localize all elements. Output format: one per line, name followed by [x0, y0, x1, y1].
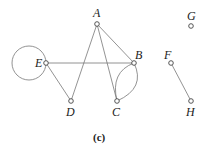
- label-g: G: [187, 9, 196, 23]
- label-c: C: [112, 105, 121, 119]
- edge-b-c-outer: [117, 63, 138, 101]
- node-e: [44, 61, 49, 66]
- graph-diagram: A B C D E F G H (c): [0, 0, 203, 151]
- edge-d-a: [71, 24, 97, 101]
- edge-a-b: [97, 24, 134, 63]
- label-a: A: [92, 6, 101, 20]
- edge-a-c: [97, 24, 117, 101]
- node-c: [115, 99, 120, 104]
- label-f: F: [163, 48, 172, 62]
- node-d: [69, 99, 74, 104]
- label-h: H: [185, 105, 196, 119]
- node-a: [95, 22, 100, 27]
- label-d: D: [65, 105, 75, 119]
- caption: (c): [93, 131, 106, 144]
- label-e: E: [34, 56, 43, 70]
- label-b: B: [135, 48, 143, 62]
- edge-b-c-inner: [115, 63, 134, 101]
- node-h: [189, 99, 194, 104]
- edge-e-d: [46, 63, 71, 101]
- edge-f-h: [171, 63, 191, 101]
- node-g: [189, 24, 194, 29]
